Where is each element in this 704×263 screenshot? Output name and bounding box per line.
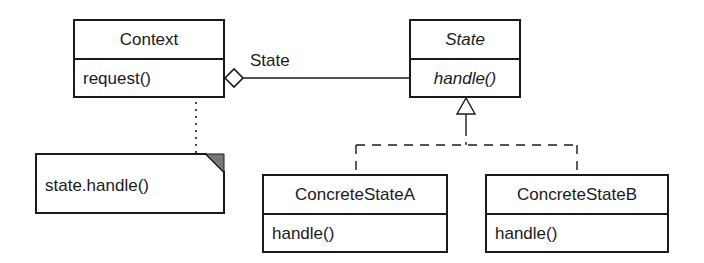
association-label: State (250, 51, 290, 71)
class-operation: request() (75, 60, 223, 97)
uml-diagram: Context request() State State handle() s… (0, 0, 704, 263)
aggregation-diamond-icon (225, 69, 243, 87)
class-name: Context (75, 21, 223, 60)
class-operation: handle() (411, 60, 519, 97)
class-concrete-state-b: ConcreteStateB handle() (485, 174, 669, 253)
class-name: State (411, 21, 519, 60)
generalization-triangle-icon (457, 98, 475, 114)
class-context: Context request() (73, 19, 225, 98)
class-name: ConcreteStateA (264, 176, 446, 215)
class-name: ConcreteStateB (487, 176, 667, 215)
class-operation: handle() (264, 215, 446, 252)
class-state: State handle() (409, 19, 521, 98)
class-concrete-state-a: ConcreteStateA handle() (262, 174, 448, 253)
note-text: state.handle() (45, 176, 149, 196)
class-operation: handle() (487, 215, 667, 252)
